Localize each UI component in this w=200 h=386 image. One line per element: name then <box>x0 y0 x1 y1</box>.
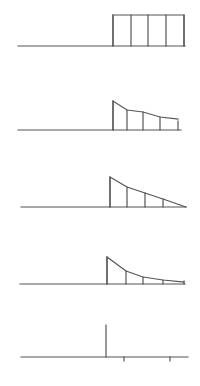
envelope-curve <box>107 257 184 284</box>
linear-decay-panel <box>21 177 186 207</box>
envelope-curve <box>113 101 178 130</box>
fast-decay-panel <box>20 257 185 284</box>
impulse-panel <box>21 325 188 361</box>
waveform-diagram <box>0 0 200 386</box>
slow-decay-panel <box>18 101 181 130</box>
envelope-curve <box>110 177 186 207</box>
rectangular-pulse-panel <box>18 15 185 46</box>
diagram-panels <box>18 15 188 361</box>
